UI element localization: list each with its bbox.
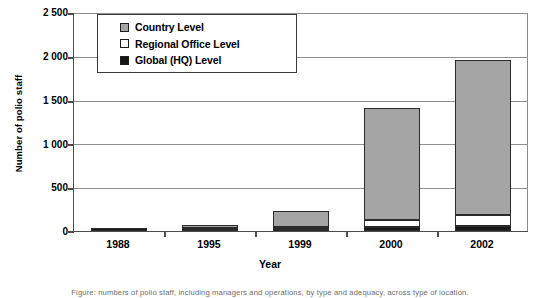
y-tick-label-500: 500 (0, 183, 68, 193)
bar-1988[interactable] (91, 228, 147, 231)
regional-swatch-icon (120, 39, 129, 48)
chart-legend[interactable]: Country Level Regional Office Level Glob… (97, 14, 297, 73)
x-tick-mark-3 (346, 231, 348, 237)
y-tick-label-0: 0 (0, 227, 68, 237)
y-tick-mark-0 (68, 231, 74, 233)
bar-segment-global-1999[interactable] (273, 229, 329, 231)
legend-label-regional: Regional Office Level (135, 38, 240, 50)
x-tick-mark-2 (255, 231, 257, 237)
x-tick-label-1988: 1988 (73, 238, 163, 250)
y-tick-mark-1000 (68, 144, 74, 146)
y-tick-mark-2000 (68, 57, 74, 59)
bar-segment-global-2000[interactable] (364, 227, 420, 231)
x-tick-label-2002: 2002 (437, 238, 527, 250)
y-tick-mark-500 (68, 188, 74, 190)
legend-label-global: Global (HQ) Level (135, 54, 221, 66)
bar-segment-regional-2000[interactable] (364, 220, 420, 227)
chart-figure: Number of polio staff 2 500 2 000 1 500 … (0, 0, 540, 298)
x-axis-title: Year (0, 258, 540, 270)
bar-segment-country-2000[interactable] (364, 108, 420, 220)
bar-1999[interactable] (273, 211, 329, 231)
bar-segment-country-1999[interactable] (273, 211, 329, 227)
legend-item-regional[interactable]: Regional Office Level (120, 36, 296, 53)
x-tick-mark-4 (437, 231, 439, 237)
y-tick-mark-2500 (68, 13, 74, 15)
country-swatch-icon (120, 23, 129, 32)
x-tick-mark-1 (164, 231, 166, 237)
x-tick-label-1995: 1995 (164, 238, 254, 250)
legend-label-country: Country Level (135, 21, 204, 33)
bar-segment-global-2002[interactable] (455, 226, 511, 231)
x-tick-label-2000: 2000 (346, 238, 436, 250)
y-axis-title: Number of polio staff (13, 44, 24, 204)
figure-caption: Figure: numbers of polio staff, includin… (0, 288, 540, 298)
legend-item-country[interactable]: Country Level (120, 19, 296, 36)
y-tick-label-1500: 1 500 (0, 96, 68, 106)
bar-segment-regional-2002[interactable] (455, 215, 511, 226)
bar-segment-regional-1999[interactable] (273, 227, 329, 229)
bar-segment-global-1988[interactable] (91, 228, 147, 231)
bar-segment-country-2002[interactable] (455, 60, 511, 215)
bar-1995[interactable] (182, 225, 238, 231)
y-tick-label-2500: 2 500 (0, 8, 68, 18)
y-tick-label-2000: 2 000 (0, 52, 68, 62)
bar-2000[interactable] (364, 108, 420, 231)
plot-frame-right (527, 13, 528, 231)
global-swatch-icon (120, 56, 129, 65)
legend-item-global[interactable]: Global (HQ) Level (120, 52, 296, 69)
bar-2002[interactable] (455, 60, 511, 231)
y-tick-mark-1500 (68, 101, 74, 103)
x-tick-label-1999: 1999 (255, 238, 345, 250)
bar-segment-country-1995[interactable] (182, 225, 238, 228)
y-tick-label-1000: 1 000 (0, 140, 68, 150)
